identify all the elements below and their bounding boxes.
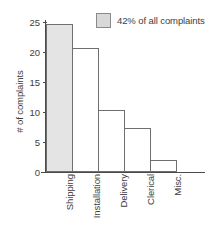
x-axis-label: Misc. xyxy=(172,174,183,196)
y-axis-tick-label: 15 xyxy=(29,77,40,88)
bar xyxy=(46,24,73,172)
plot-area: 0510152025 xyxy=(46,22,181,172)
y-axis-tick-label: 5 xyxy=(35,137,40,148)
x-axis-label-slot: Clerical xyxy=(127,174,154,230)
bar-chart: 42% of all complaints # of complaints 05… xyxy=(0,0,214,231)
y-axis-tick-label: 10 xyxy=(29,107,40,118)
bar-series xyxy=(46,22,181,172)
x-axis-label-slot: Installation xyxy=(73,174,100,230)
y-axis-title: # of complaints xyxy=(14,47,25,157)
x-axis-label-slot: Delivery xyxy=(100,174,127,230)
y-axis-tick-label: 0 xyxy=(35,167,40,178)
bar xyxy=(124,128,151,172)
bar xyxy=(150,160,177,172)
x-axis-labels: ShippingInstallationDeliveryClericalMisc… xyxy=(46,174,181,230)
y-axis-tick-label: 25 xyxy=(29,17,40,28)
x-axis-label-slot: Misc. xyxy=(154,174,181,230)
bar xyxy=(72,48,99,172)
x-axis-label-slot: Shipping xyxy=(46,174,73,230)
y-axis-tick-label: 20 xyxy=(29,47,40,58)
bar xyxy=(98,110,125,172)
